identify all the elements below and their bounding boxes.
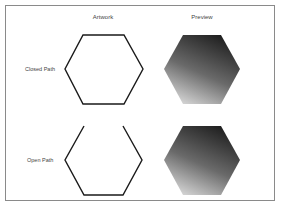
open-hexagon-preview [164,126,240,195]
closed-hexagon-preview [164,35,240,104]
hexagon-illustrations [0,0,282,208]
closed-hexagon-outline [65,35,143,104]
open-hexagon-outline [65,126,142,195]
